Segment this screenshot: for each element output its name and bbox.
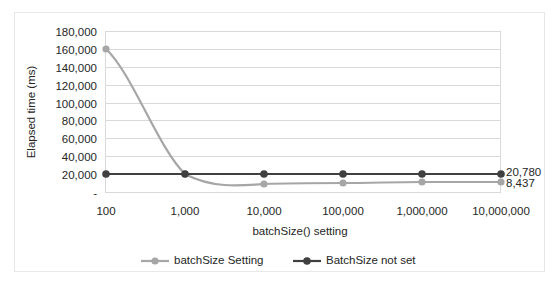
chart-container: 180,000 160,000 140,000 120,000 100,000 … <box>0 0 559 285</box>
y-axis-title: Elapsed time (ms) <box>25 66 37 159</box>
data-point-marker <box>497 178 504 185</box>
series-markers-batchsize-setting <box>102 45 504 187</box>
y-tick-label: 80,000 <box>62 115 97 127</box>
x-tick-label: 1,000 <box>171 205 200 217</box>
data-point-marker <box>418 178 425 185</box>
legend-item-batchsize-setting[interactable]: batchSize Setting <box>141 254 264 266</box>
legend-label: BatchSize not set <box>326 254 416 266</box>
x-tick-label: 100 <box>96 205 115 217</box>
y-tick-label: 100,000 <box>55 98 97 110</box>
x-axis-title: batchSize() setting <box>252 225 347 237</box>
x-tick-label: 100,000 <box>322 205 364 217</box>
data-point-marker <box>339 179 346 186</box>
y-tick-label: 40,000 <box>62 151 97 163</box>
y-tick-label: - <box>93 187 97 199</box>
data-point-marker <box>418 170 426 178</box>
y-tick-label: 120,000 <box>55 80 97 92</box>
plot-area-border <box>106 32 501 193</box>
y-tick-label: 140,000 <box>55 62 97 74</box>
data-point-marker <box>102 170 110 178</box>
x-axis-tick-labels: 100 1,000 10,000 100,000 1,000,000 10,00… <box>96 205 529 217</box>
x-tick-label: 10,000,000 <box>472 205 530 217</box>
legend-label: batchSize Setting <box>174 254 264 266</box>
y-tick-label: 60,000 <box>62 133 97 145</box>
legend-swatch-marker <box>151 257 158 264</box>
data-point-marker <box>181 170 189 178</box>
gridlines <box>106 32 501 193</box>
data-point-marker <box>260 170 268 178</box>
data-point-marker <box>497 170 505 178</box>
data-point-marker <box>102 45 109 52</box>
y-tick-label: 20,000 <box>62 169 97 181</box>
x-tick-label: 1,000,000 <box>396 205 447 217</box>
chart-legend: batchSize Setting BatchSize not set <box>141 254 416 266</box>
y-tick-label: 160,000 <box>55 44 97 56</box>
y-tick-label: 180,000 <box>55 26 97 38</box>
series-line-batchsize-setting <box>106 49 501 185</box>
legend-item-batchsize-not-set[interactable]: BatchSize not set <box>293 254 416 266</box>
data-point-marker <box>339 170 347 178</box>
chart-canvas: 180,000 160,000 140,000 120,000 100,000 … <box>0 0 559 285</box>
x-tick-label: 10,000 <box>246 205 281 217</box>
legend-swatch-marker <box>303 257 311 265</box>
y-axis-tick-labels: 180,000 160,000 140,000 120,000 100,000 … <box>55 26 97 199</box>
data-point-marker <box>260 180 267 187</box>
data-label-batchsize-setting: 8,437 <box>506 177 535 189</box>
